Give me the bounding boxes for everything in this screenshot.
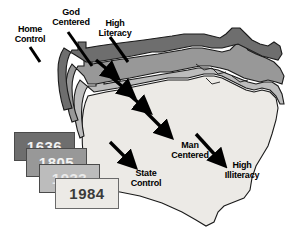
label-high-illiteracy: HighIlliteracy <box>214 160 270 180</box>
leader-home-control <box>30 47 40 62</box>
label-home-control-line1: Home <box>18 24 42 34</box>
label-man-centered-line2: Centered <box>171 150 208 160</box>
label-home-control: HomeControl <box>4 24 56 44</box>
label-state-control-line1: State <box>135 168 156 178</box>
label-man-centered-line1: Man <box>181 140 198 150</box>
figure-canvas: HomeControl GodCentered HighLiteracy Sta… <box>0 0 288 231</box>
label-high-literacy: HighLiteracy <box>88 18 142 38</box>
label-god-centered-line2: Centered <box>52 17 89 27</box>
label-high-literacy-line1: High <box>105 18 124 28</box>
label-state-control: StateControl <box>122 168 170 188</box>
label-high-illiteracy-line1: High <box>232 160 251 170</box>
label-home-control-line2: Control <box>15 34 46 44</box>
label-high-literacy-line2: Literacy <box>99 28 132 38</box>
label-high-illiteracy-line2: Illiteracy <box>225 170 260 180</box>
label-god-centered-line1: God <box>62 7 79 17</box>
date-box-1984: 1984 <box>55 178 119 209</box>
label-man-centered: ManCentered <box>162 140 218 160</box>
label-state-control-line2: Control <box>131 178 162 188</box>
